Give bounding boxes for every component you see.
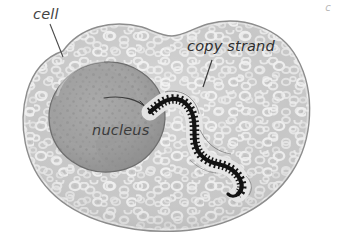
cell-diagram-canvas	[0, 0, 337, 239]
cell-diagram-figure: cell copy strand nucleus c	[0, 0, 337, 239]
label-nucleus: nucleus	[92, 122, 149, 138]
corner-mark-glyph: c	[325, 2, 331, 13]
cell-leader-line	[50, 24, 63, 57]
label-cell: cell	[33, 6, 59, 22]
label-copy-strand: copy strand	[187, 38, 275, 54]
